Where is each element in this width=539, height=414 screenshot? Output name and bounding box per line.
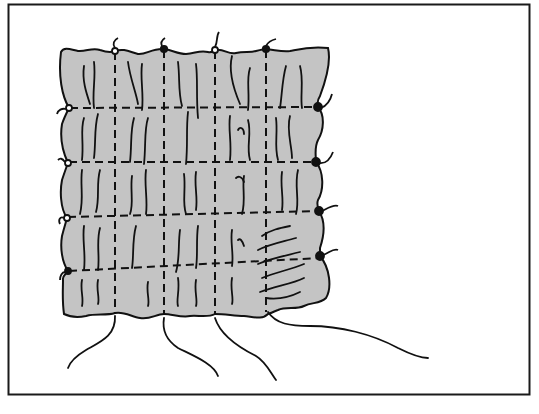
bottom-threads	[68, 312, 428, 380]
top-knots	[112, 32, 276, 54]
illustration-canvas: Smocked fabric swatch with gathering thr…	[0, 0, 539, 414]
smocking-illustration	[0, 0, 539, 414]
